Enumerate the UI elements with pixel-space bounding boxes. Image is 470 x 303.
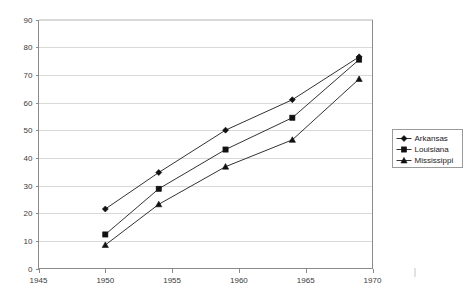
marker-louisiana-1969 — [357, 57, 362, 62]
series-line-louisiana — [105, 60, 359, 235]
plot-area-frame — [39, 20, 373, 269]
x-axis-tick-labels: 194519501955196019651970 — [30, 276, 382, 285]
legend-label-arkansas: Arkansas — [415, 134, 448, 143]
chart-legend: ArkansasLouisianaMississippi — [393, 130, 463, 168]
x-tick-label-1960: 1960 — [230, 276, 248, 285]
y-tick-label-70: 70 — [24, 71, 33, 80]
legend-label-louisiana: Louisiana — [415, 145, 450, 154]
marker-arkansas-1954 — [156, 169, 162, 175]
x-tick-label-1965: 1965 — [297, 276, 315, 285]
marker-mississippi-1959 — [222, 164, 228, 170]
x-tick-label-1955: 1955 — [163, 276, 181, 285]
x-tick-label-1950: 1950 — [96, 276, 114, 285]
y-tick-label-30: 30 — [24, 182, 33, 191]
marker-arkansas-1959 — [223, 127, 229, 133]
y-tick-label-80: 80 — [24, 43, 33, 52]
chart-canvas: 0102030405060708090 19451950195519601965… — [0, 0, 470, 303]
y-tick-label-10: 10 — [24, 237, 33, 246]
marker-louisiana-1964 — [290, 115, 295, 120]
y-tick-label-20: 20 — [24, 209, 33, 218]
marker-louisiana-1959 — [223, 147, 228, 152]
x-tick-label-1970: 1970 — [364, 276, 382, 285]
edge-artifact-mark — [414, 268, 416, 277]
marker-mississippi-1969 — [356, 76, 362, 82]
line-chart: 0102030405060708090 19451950195519601965… — [0, 0, 470, 303]
x-axis — [36, 21, 374, 273]
y-axis-tick-labels: 0102030405060708090 — [24, 16, 33, 274]
gridlines — [39, 21, 373, 242]
y-tick-label-50: 50 — [24, 126, 33, 135]
y-tick-label-0: 0 — [28, 265, 33, 274]
legend-label-mississippi: Mississippi — [415, 156, 454, 165]
y-tick-label-90: 90 — [24, 16, 33, 25]
series-lines — [105, 57, 359, 245]
y-tick-label-60: 60 — [24, 99, 33, 108]
marker-louisiana-1954 — [156, 186, 161, 191]
marker-arkansas-1950 — [102, 206, 108, 212]
marker-mississippi-1954 — [156, 201, 162, 207]
x-tick-label-1945: 1945 — [30, 276, 48, 285]
legend-marker-louisiana — [401, 147, 406, 152]
series-markers — [102, 54, 362, 248]
y-tick-label-40: 40 — [24, 154, 33, 163]
marker-arkansas-1964 — [289, 97, 295, 103]
marker-louisiana-1950 — [103, 232, 108, 237]
